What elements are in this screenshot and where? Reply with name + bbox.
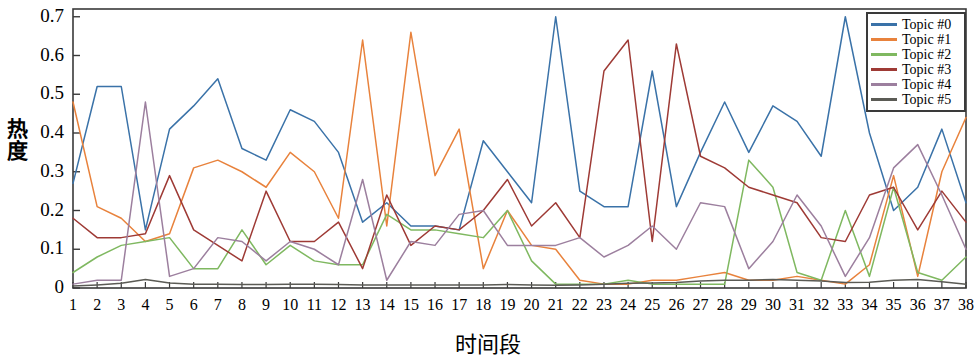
x-tick-label: 7	[207, 296, 229, 314]
x-tick-label: 27	[690, 296, 712, 314]
y-tick-label: 0.7	[20, 5, 64, 27]
x-tick-label: 34	[858, 296, 880, 314]
x-tick-label: 29	[738, 296, 760, 314]
legend-color-swatch-topic-1	[871, 38, 897, 41]
y-tick-label: 0.2	[20, 199, 64, 221]
x-tick-label: 12	[327, 296, 349, 314]
legend-item[interactable]: Topic #3	[871, 62, 960, 77]
series-line-topic-1	[73, 32, 966, 284]
y-tick-label: 0.1	[20, 237, 64, 259]
x-tick-label: 35	[883, 296, 905, 314]
legend-label-topic-4: Topic #4	[902, 77, 951, 93]
x-tick-label: 38	[955, 296, 975, 314]
x-tick-label: 6	[183, 296, 205, 314]
y-tick-label: 0.5	[20, 82, 64, 104]
legend-item[interactable]: Topic #4	[871, 77, 960, 92]
x-tick-label: 13	[352, 296, 374, 314]
x-tick-label: 20	[521, 296, 543, 314]
legend-color-swatch-topic-0	[871, 23, 897, 26]
x-tick-label: 36	[907, 296, 929, 314]
legend-color-swatch-topic-5	[871, 98, 897, 101]
x-tick-label: 10	[279, 296, 301, 314]
x-tick-label: 22	[569, 296, 591, 314]
x-tick-label: 19	[496, 296, 518, 314]
y-tick-label: 0.4	[20, 121, 64, 143]
legend-label-topic-5: Topic #5	[902, 92, 951, 108]
legend-color-swatch-topic-2	[871, 53, 897, 56]
x-tick-label: 21	[545, 296, 567, 314]
legend-item[interactable]: Topic #2	[871, 47, 960, 62]
plot-frame	[73, 9, 966, 288]
x-tick-label: 2	[86, 296, 108, 314]
x-tick-label: 28	[714, 296, 736, 314]
legend-label-topic-0: Topic #0	[902, 17, 951, 33]
x-tick-label: 5	[159, 296, 181, 314]
x-tick-label: 3	[110, 296, 132, 314]
x-tick-label: 26	[665, 296, 687, 314]
x-tick-label: 32	[810, 296, 832, 314]
x-axis-label: 时间段	[0, 326, 975, 358]
x-tick-label: 4	[134, 296, 156, 314]
legend-label-topic-2: Topic #2	[902, 47, 951, 63]
x-tick-label: 9	[255, 296, 277, 314]
x-tick-label: 33	[834, 296, 856, 314]
legend-item[interactable]: Topic #1	[871, 32, 960, 47]
x-tick-label: 14	[376, 296, 398, 314]
x-tick-label: 37	[931, 296, 953, 314]
legend-color-swatch-topic-4	[871, 83, 897, 86]
chart-legend: Topic #0 Topic #1 Topic #2 Topic #3 Topi…	[866, 12, 966, 112]
x-tick-label: 18	[472, 296, 494, 314]
x-tick-label: 23	[593, 296, 615, 314]
series-line-topic-5	[73, 279, 966, 286]
series-line-topic-0	[73, 17, 966, 230]
legend-color-swatch-topic-3	[871, 68, 897, 71]
x-tick-label: 8	[231, 296, 253, 314]
y-tick-label: 0	[20, 276, 64, 298]
y-tick-label: 0.3	[20, 160, 64, 182]
x-tick-label: 31	[786, 296, 808, 314]
chart-figure: 热度 时间段 00.10.20.30.40.50.60.7 1234567891…	[0, 0, 975, 359]
x-tick-label: 1	[62, 296, 84, 314]
x-tick-label: 17	[448, 296, 470, 314]
x-tick-label: 11	[303, 296, 325, 314]
x-tick-label: 30	[762, 296, 784, 314]
legend-label-topic-1: Topic #1	[902, 32, 951, 48]
y-tick-label: 0.6	[20, 44, 64, 66]
legend-item[interactable]: Topic #0	[871, 17, 960, 32]
series-line-topic-2	[73, 160, 966, 284]
x-tick-label: 15	[400, 296, 422, 314]
series-line-topic-4	[73, 102, 966, 284]
x-tick-label: 25	[641, 296, 663, 314]
x-tick-label: 16	[424, 296, 446, 314]
legend-item[interactable]: Topic #5	[871, 92, 960, 107]
legend-label-topic-3: Topic #3	[902, 62, 951, 78]
x-tick-label: 24	[617, 296, 639, 314]
